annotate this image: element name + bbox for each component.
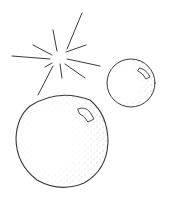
sparkle-icon — [12, 13, 100, 95]
large-sphere — [16, 93, 108, 187]
sketch-illustration — [0, 0, 169, 199]
small-sphere — [107, 59, 155, 107]
